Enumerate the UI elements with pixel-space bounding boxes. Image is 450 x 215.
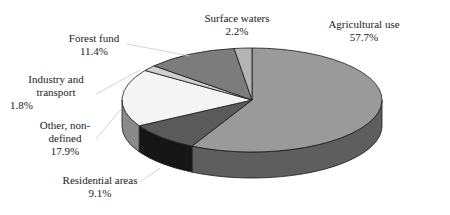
label-value: 17.9% xyxy=(20,145,110,158)
label-text: Other, non- xyxy=(20,119,110,132)
label-industry-transport: Industry and transport 1.8% xyxy=(6,73,106,112)
leader-forest xyxy=(127,44,190,56)
pie-tops xyxy=(122,48,382,152)
label-value: 57.7% xyxy=(309,31,419,44)
label-value: 11.4% xyxy=(54,45,134,58)
label-text: Residential areas xyxy=(45,174,155,187)
label-value: 2.2% xyxy=(187,25,287,38)
label-residential-areas: Residential areas 9.1% xyxy=(45,174,155,200)
label-agricultural-use: Agricultural use 57.7% xyxy=(309,18,419,44)
label-text: Forest fund xyxy=(54,32,134,45)
label-text-2: transport xyxy=(6,86,106,99)
label-value: 9.1% xyxy=(45,187,155,200)
label-text-2: defined xyxy=(20,132,110,145)
label-text: Agricultural use xyxy=(309,18,419,31)
label-text: Surface waters xyxy=(187,12,287,25)
label-other-non-defined: Other, non- defined 17.9% xyxy=(20,119,110,158)
label-forest-fund: Forest fund 11.4% xyxy=(54,32,134,58)
label-value: 1.8% xyxy=(6,99,106,112)
label-surface-waters: Surface waters 2.2% xyxy=(187,12,287,38)
label-text: Industry and xyxy=(6,73,106,86)
